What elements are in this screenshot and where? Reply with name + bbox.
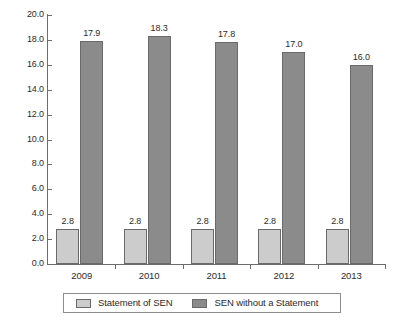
bar[interactable] [326,229,349,264]
legend-label-statement-of-sen: Statement of SEN [98,298,172,308]
bar-group: 2.817.0 [258,15,305,264]
y-axis-tick-label: 0.0 [8,259,44,268]
y-axis-tick-label: 14.0 [8,85,44,94]
y-axis-tick-label: 10.0 [8,135,44,144]
x-axis-category-label: 2009 [48,270,115,281]
x-axis-tick-mark [115,265,116,269]
bar[interactable] [258,229,281,264]
y-axis-tick-label: 16.0 [8,60,44,69]
bar-value-label: 18.3 [142,24,177,33]
bar-value-label: 17.8 [209,30,244,39]
bars-layer: 2.817.92.818.32.817.82.817.02.816.0 [48,15,385,264]
bar-value-label: 17.9 [74,29,109,38]
y-axis-labels: 20.018.016.014.012.010.08.06.04.02.00.0 [0,0,44,320]
x-axis-category-label: 2010 [115,270,182,281]
bar[interactable] [191,229,214,264]
y-axis-tick-label: 8.0 [8,159,44,168]
legend-swatch-icon-sen-without-a-statement [192,299,207,308]
y-axis-tick-mark [48,264,52,265]
x-axis-labels: 20092010201120122013 [48,270,385,284]
x-axis-tick-mark [183,265,184,269]
chart-legend: Statement of SEN SEN without a Statement [63,293,341,313]
bar[interactable] [350,65,373,264]
x-axis-tick-mark [318,265,319,269]
legend-label-sen-without-a-statement: SEN without a Statement [214,298,318,308]
y-axis-tick-label: 4.0 [8,209,44,218]
x-axis-category-label: 2011 [183,270,250,281]
legend-item-statement-of-sen[interactable]: Statement of SEN [76,298,172,308]
x-axis-tick-mark [385,265,386,269]
y-axis-tick-label: 2.0 [8,234,44,243]
bar[interactable] [56,229,79,264]
y-axis-tick-label: 20.0 [8,10,44,19]
bar-value-label: 16.0 [344,53,379,62]
x-axis-category-label: 2012 [250,270,317,281]
bar[interactable] [215,42,238,264]
y-axis-tick-label: 12.0 [8,110,44,119]
bar-group: 2.817.8 [191,15,238,264]
bar[interactable] [80,41,103,264]
bar-group: 2.818.3 [124,15,171,264]
x-axis-line [47,264,386,265]
x-axis-category-label: 2013 [318,270,385,281]
bar[interactable] [282,52,305,264]
y-axis-tick-label: 6.0 [8,184,44,193]
legend-swatch-icon-statement-of-sen [76,299,91,308]
bar[interactable] [124,229,147,264]
x-axis-tick-mark [250,265,251,269]
bar-value-label: 17.0 [276,40,311,49]
legend-item-sen-without-a-statement[interactable]: SEN without a Statement [192,298,318,308]
bar-chart: 20.018.016.014.012.010.08.06.04.02.00.0 … [0,0,403,320]
bar-group: 2.816.0 [326,15,373,264]
bar-group: 2.817.9 [56,15,103,264]
bar[interactable] [148,36,171,264]
y-axis-tick-label: 18.0 [8,35,44,44]
